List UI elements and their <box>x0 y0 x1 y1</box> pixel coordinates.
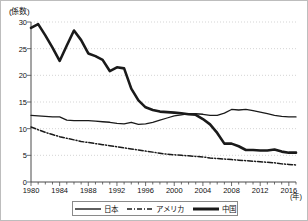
legend-label-america: アメリカ <box>156 203 184 214</box>
y-tick-label: 30 <box>7 18 27 27</box>
x-tick-label: 1984 <box>44 186 76 195</box>
y-tick-label: 20 <box>7 71 27 80</box>
y-axis-unit-label: (係数) <box>9 5 30 16</box>
y-tick-label: 5 <box>7 151 27 160</box>
legend-item-japan: 日本 <box>75 203 118 214</box>
legend-label-china: 中国 <box>222 203 236 214</box>
series-line-1 <box>31 127 296 165</box>
legend-item-america: アメリカ <box>127 203 184 214</box>
x-tick-label: 2004 <box>187 186 219 195</box>
x-tick-label: 2000 <box>158 186 190 195</box>
legend-swatch-thin-solid <box>75 205 101 213</box>
legend-swatch-thick-solid <box>193 205 219 213</box>
chart-canvas <box>31 22 296 182</box>
x-tick-label: 2008 <box>216 186 248 195</box>
y-tick-label: 10 <box>7 125 27 134</box>
x-tick-label: 2016 <box>273 186 305 195</box>
x-tick-label: 1992 <box>101 186 133 195</box>
x-tick-label: 1980 <box>15 186 47 195</box>
series-line-2 <box>31 24 296 153</box>
plot-area <box>31 22 296 182</box>
chart-legend: 日本 アメリカ 中国 <box>72 201 238 216</box>
line-chart-figure: (係数) (年) 051015202530 198019841988199219… <box>0 0 308 221</box>
legend-item-china: 中国 <box>193 203 236 214</box>
legend-label-japan: 日本 <box>104 203 118 214</box>
y-tick-label: 25 <box>7 45 27 54</box>
y-tick-label: 15 <box>7 98 27 107</box>
x-tick-label: 1996 <box>130 186 162 195</box>
x-tick-label: 1988 <box>72 186 104 195</box>
x-tick-label: 2012 <box>244 186 276 195</box>
legend-swatch-dash-dot <box>127 205 153 213</box>
